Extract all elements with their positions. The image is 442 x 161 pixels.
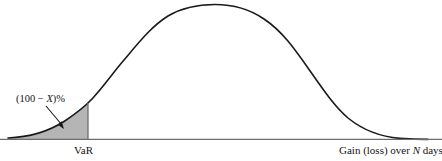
x-axis-label: Gain (loss) over N days — [339, 145, 442, 156]
tail-label-prefix: (100 − — [16, 93, 46, 104]
distribution-plot — [0, 0, 442, 161]
tail-probability-label: (100 − X)% — [16, 94, 65, 105]
axis-label-prefix: Gain (loss) over — [339, 144, 413, 156]
axis-label-suffix: days — [420, 144, 442, 156]
var-tick-label: VaR — [74, 145, 93, 156]
axis-label-variable: N — [413, 144, 420, 156]
annotation-leader-line — [46, 106, 62, 125]
var-distribution-figure: (100 − X)% VaR Gain (loss) over N days — [0, 0, 442, 161]
tail-label-suffix: )% — [53, 93, 65, 104]
